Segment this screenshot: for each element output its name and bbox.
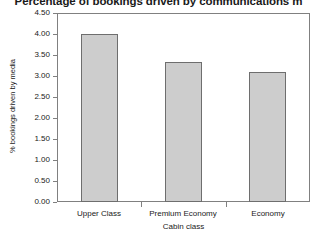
x-axis-tick <box>141 202 142 207</box>
chart-figure: Percentage of bookings driven by communi… <box>0 0 317 235</box>
x-axis-tick <box>226 202 227 207</box>
x-axis-tick-label: Upper Class <box>57 209 141 219</box>
x-axis-tick-label: Premium Economy <box>141 209 225 219</box>
bar <box>249 72 286 202</box>
y-axis-tick-label: 1.50 <box>14 135 50 143</box>
y-axis-tick-label: 1.00 <box>14 156 50 164</box>
y-axis-tick-label: 2.50 <box>14 93 50 101</box>
y-axis-tick-label: 2.00 <box>14 114 50 122</box>
y-axis-tick-label: 0.50 <box>14 177 50 185</box>
y-axis-tick-label: 3.50 <box>14 51 50 59</box>
y-axis-title: % bookings driven by media <box>7 11 19 201</box>
bar <box>165 62 202 202</box>
x-axis-tick-label: Economy <box>226 209 310 219</box>
y-axis-tick-label: 4.00 <box>14 30 50 38</box>
y-axis-tick-label: 4.50 <box>14 9 50 17</box>
y-axis-tick-label: 0.00 <box>14 198 50 206</box>
y-axis-tick-label: 3.00 <box>14 72 50 80</box>
x-axis-title: Cabin class <box>57 222 310 232</box>
bar <box>81 34 118 202</box>
